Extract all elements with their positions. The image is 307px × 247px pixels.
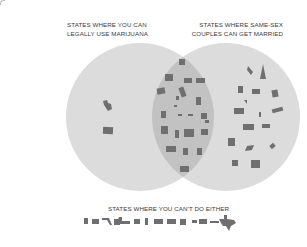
state-both xyxy=(205,120,209,123)
state-neither xyxy=(84,218,88,224)
state-neither xyxy=(167,219,176,224)
state-marijuana-only xyxy=(103,127,113,135)
state-marriage-only xyxy=(228,138,235,146)
state-both xyxy=(201,113,207,119)
state-both xyxy=(184,129,194,137)
state-marriage-only xyxy=(271,90,278,98)
state-neither xyxy=(199,219,207,224)
state-marriage-only xyxy=(252,89,260,94)
state-both xyxy=(188,114,193,116)
label-marriage-line1: STATES WHERE SAME-SEX xyxy=(192,20,283,29)
state-marriage-only xyxy=(234,108,244,114)
state-neither xyxy=(145,218,148,225)
state-neither xyxy=(102,218,112,225)
label-marijuana: STATES WHERE YOU CAN LEGALLY USE MARIJUA… xyxy=(67,20,148,38)
state-marriage-only xyxy=(259,112,261,117)
label-marriage-line2: COUPLES CAN GET MARRIED xyxy=(192,29,283,38)
state-both xyxy=(201,129,208,135)
state-both xyxy=(196,78,205,83)
state-neither xyxy=(122,221,130,224)
state-both xyxy=(196,97,201,105)
state-both xyxy=(184,78,192,83)
state-marriage-only xyxy=(238,86,243,93)
state-both xyxy=(165,74,173,81)
state-neither xyxy=(219,215,236,231)
state-both xyxy=(174,105,177,107)
state-both xyxy=(197,148,202,155)
state-neither xyxy=(92,219,99,224)
label-same-sex-marriage: STATES WHERE SAME-SEX COUPLES CAN GET MA… xyxy=(192,20,283,38)
state-both xyxy=(180,166,189,172)
label-neither: STATES WHERE YOU CAN'T DO EITHER xyxy=(0,204,307,213)
state-neither xyxy=(192,220,197,223)
state-neither xyxy=(154,219,163,224)
state-both xyxy=(175,130,179,138)
state-neither xyxy=(180,219,186,225)
state-both xyxy=(178,114,182,116)
state-both xyxy=(179,59,185,65)
state-both xyxy=(161,111,166,118)
state-marriage-only xyxy=(243,124,254,130)
state-both xyxy=(161,126,168,134)
state-both xyxy=(166,146,176,152)
state-marriage-only xyxy=(251,160,260,168)
state-neither xyxy=(134,219,140,224)
state-neither xyxy=(210,221,219,223)
state-marriage-only xyxy=(262,124,270,128)
label-marijuana-line1: STATES WHERE YOU CAN xyxy=(67,20,148,29)
state-both xyxy=(176,96,179,100)
label-marijuana-line2: LEGALLY USE MARIJUANA xyxy=(67,29,148,38)
state-marriage-only xyxy=(232,160,238,166)
state-both xyxy=(183,148,188,155)
